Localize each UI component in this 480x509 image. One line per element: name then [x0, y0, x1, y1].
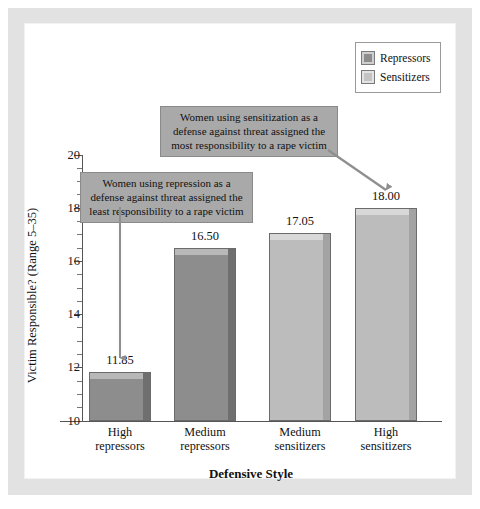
x-axis-category-label-line: Medium — [157, 426, 253, 440]
legend-item: Sensitizers — [361, 67, 440, 86]
y-axis-tick-minor — [77, 248, 82, 249]
bar-outline — [174, 248, 236, 421]
bar — [355, 208, 417, 421]
x-axis-category-label-line: repressors — [72, 440, 168, 454]
y-axis-tick-minor — [77, 234, 82, 235]
bar — [89, 372, 151, 421]
y-axis-tick-minor — [77, 288, 82, 289]
bar-value-label: 16.50 — [165, 230, 245, 243]
annotation-text-line: least responsibility to a rape victim — [87, 205, 246, 219]
legend-swatch-icon — [361, 51, 375, 65]
bar — [174, 248, 236, 421]
y-axis-tick-minor — [77, 341, 82, 342]
y-axis-tick-label: 12 — [46, 361, 80, 374]
annotation-text-line: Women using repression as a — [87, 177, 246, 191]
x-axis-category-label: Mediumsensitizers — [252, 426, 348, 453]
y-axis-tick-minor — [77, 327, 82, 328]
bar — [269, 233, 331, 421]
x-axis-title: Defensive Style — [60, 466, 442, 482]
x-axis-line — [60, 421, 442, 422]
bar-value-label: 11.85 — [80, 354, 160, 367]
legend-item-label: Sensitizers — [380, 71, 430, 83]
x-axis-category-label-line: Medium — [252, 426, 348, 440]
x-axis-category-label: Highrepressors — [72, 426, 168, 453]
y-axis-title: Victim Responsible? (Range 5–35) — [25, 186, 40, 406]
y-axis-tick-label: 16 — [46, 255, 80, 268]
annotation-callout-repression: Women using repression as adefense again… — [80, 172, 253, 223]
x-axis-category-label: Mediumrepressors — [157, 426, 253, 453]
x-axis-category-label-line: repressors — [157, 440, 253, 454]
y-axis-tick-minor — [77, 394, 82, 395]
x-axis-category-label: Highsensitizers — [338, 426, 434, 453]
annotation-callout-sensitization: Women using sensitization as adefense ag… — [160, 106, 338, 157]
y-axis-tick-minor — [77, 301, 82, 302]
x-axis-category-label-line: High — [338, 426, 434, 440]
annotation-text-line: Women using sensitization as a — [167, 111, 331, 125]
annotation-text-line: defense against threat assigned the — [87, 191, 246, 205]
y-axis-tick-minor — [77, 407, 82, 408]
legend-item: Repressors — [361, 48, 440, 67]
bar-value-label: 17.05 — [260, 215, 340, 228]
legend-swatch-icon — [361, 70, 375, 84]
annotation-text-line: defense against threat assigned the — [167, 125, 331, 139]
y-axis-tick-label: 14 — [46, 308, 80, 321]
bar-value-label: 18.00 — [346, 190, 426, 203]
y-axis-tick-label: 20 — [46, 149, 80, 162]
y-axis-tick-label: 18 — [46, 202, 80, 215]
figure-container: 101214161820 Victim Responsible? (Range … — [0, 0, 480, 509]
legend-item-label: Repressors — [380, 52, 430, 64]
y-axis-tick-minor — [77, 168, 82, 169]
x-axis-category-label-line: sensitizers — [338, 440, 434, 454]
bar-outline — [269, 233, 331, 421]
x-axis-category-label-line: sensitizers — [252, 440, 348, 454]
x-axis-category-label-line: High — [72, 426, 168, 440]
bar-outline — [89, 372, 151, 421]
annotation-text-line: most responsibility to a rape victim — [167, 139, 331, 153]
chart-legend: RepressorsSensitizers — [355, 42, 441, 93]
y-axis-tick-minor — [77, 381, 82, 382]
bar-outline — [355, 208, 417, 421]
y-axis-tick-minor — [77, 274, 82, 275]
